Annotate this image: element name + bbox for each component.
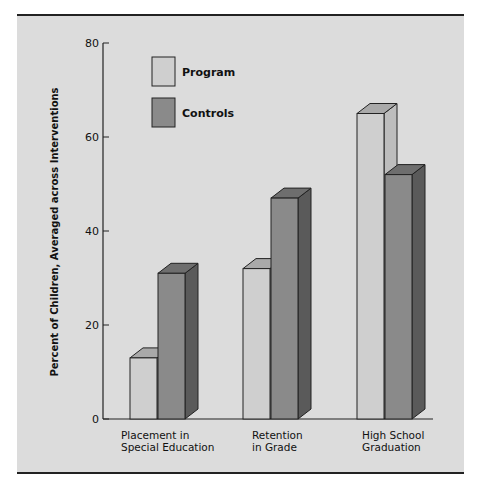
controls-bar-3-front bbox=[385, 175, 412, 419]
controls-bar-1-front bbox=[158, 273, 185, 419]
controls-bar-2-side bbox=[298, 188, 311, 419]
y-tick-label: 0 bbox=[92, 413, 99, 426]
legend-label-controls: Controls bbox=[182, 107, 234, 120]
controls-bar-2-front bbox=[271, 198, 298, 419]
controls-bar-3-side bbox=[412, 165, 425, 419]
program-bar-3-front bbox=[357, 114, 384, 420]
legend-swatch-controls bbox=[152, 98, 175, 127]
bar-chart: 020406080Percent of Children, Averaged a… bbox=[0, 0, 479, 483]
legend-swatch-program bbox=[152, 57, 175, 86]
x-category-label: Retentionin Grade bbox=[252, 429, 303, 453]
program-bar-1-front bbox=[130, 358, 157, 419]
y-axis-label: Percent of Children, Averaged across Int… bbox=[49, 87, 60, 376]
y-tick-label: 40 bbox=[85, 225, 99, 238]
program-bar-2-front bbox=[243, 269, 270, 419]
x-category-label-line: in Grade bbox=[252, 441, 303, 453]
x-category-label-line: Placement in bbox=[121, 429, 214, 441]
x-category-label-line: Graduation bbox=[362, 441, 424, 453]
y-tick-label: 20 bbox=[85, 319, 99, 332]
controls-bar-1-side bbox=[185, 263, 198, 419]
x-category-label-line: Special Education bbox=[121, 441, 214, 453]
y-tick-label: 60 bbox=[85, 131, 99, 144]
x-category-label: High SchoolGraduation bbox=[362, 429, 424, 453]
x-category-label-line: Retention bbox=[252, 429, 303, 441]
y-tick-label: 80 bbox=[85, 37, 99, 50]
x-category-label: Placement inSpecial Education bbox=[121, 429, 214, 453]
legend-label-program: Program bbox=[182, 66, 235, 79]
x-category-label-line: High School bbox=[362, 429, 424, 441]
